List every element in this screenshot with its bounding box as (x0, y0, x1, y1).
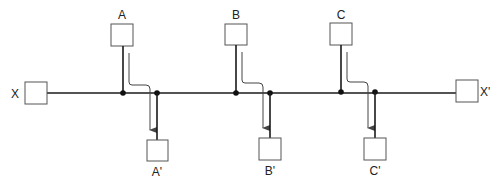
flow-arrow-b (242, 52, 263, 128)
source-c-junction (338, 89, 344, 95)
source-b-junction (233, 90, 239, 96)
endpoint-x-prime: X' (456, 80, 490, 102)
dest-b-label: B' (265, 164, 275, 178)
flow-arrow-c (347, 52, 368, 128)
bus-diagram: X X' A A' B B' C C' (0, 0, 503, 185)
source-a-box (111, 24, 133, 46)
source-b-label: B (232, 8, 240, 22)
endpoint-x-label: X (11, 87, 19, 101)
source-b-box (225, 24, 247, 45)
source-a-label: A (118, 8, 126, 22)
source-c-label: C (337, 8, 346, 22)
dest-a-box (147, 140, 168, 161)
dest-c-label: C' (370, 164, 381, 178)
source-a-junction (120, 90, 126, 96)
endpoint-x-prime-label: X' (480, 85, 490, 99)
flow-arrow-a (129, 53, 150, 130)
dest-a-label: A' (152, 165, 162, 179)
endpoint-x-prime-box (456, 80, 478, 102)
dest-b-box (259, 138, 281, 160)
dest-c-box (364, 138, 386, 160)
endpoint-x: X (11, 82, 47, 104)
endpoint-x-box (25, 82, 47, 104)
source-c-box (330, 23, 352, 45)
